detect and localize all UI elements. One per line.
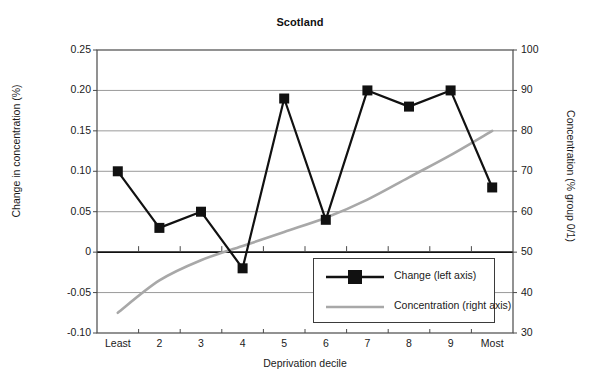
legend-marker-change-icon [324,265,386,289]
legend-item-change: Change (left axis) [314,265,496,289]
legend-item-concentration: Concentration (right axis) [314,295,496,319]
legend-label-concentration: Concentration (right axis) [394,299,511,311]
chart-container: Scotland Change in concentration (%) Con… [0,0,600,389]
plot-area [0,0,600,389]
legend: Change (left axis) Concentration (right … [313,258,495,323]
legend-marker-concentration-icon [324,295,386,319]
legend-label-change: Change (left axis) [394,269,476,281]
